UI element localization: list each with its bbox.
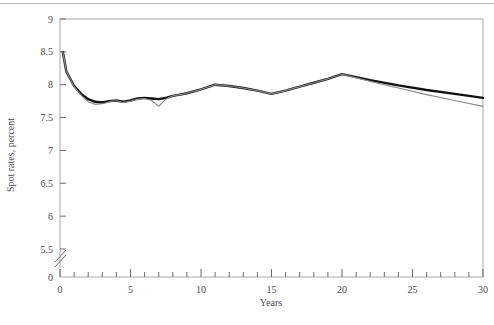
x-tick-label: 30 <box>478 284 488 295</box>
y-tick-label: 8.5 <box>41 46 54 57</box>
x-tick-label: 10 <box>196 284 206 295</box>
y-tick-label: 6.5 <box>41 178 54 189</box>
x-tick-label: 15 <box>267 284 277 295</box>
x-tick-label: 25 <box>408 284 418 295</box>
x-axis-title: Years <box>260 297 282 308</box>
spot-rate-curve-black <box>63 52 483 103</box>
data-series-layer <box>63 52 483 107</box>
y-tick-label: 6 <box>48 211 53 222</box>
x-tick-label: 0 <box>58 284 63 295</box>
chart-svg: 5.566.577.588.590 051015202530 Years Spo… <box>0 0 494 325</box>
y-tick-label-zero: 0 <box>48 272 53 283</box>
x-tick-label: 5 <box>128 284 133 295</box>
y-axis-title: Spot rates, percent <box>5 118 16 192</box>
y-tick-label: 7.5 <box>41 112 54 123</box>
y-tick-label: 9 <box>48 14 53 25</box>
y-tick-label: 8 <box>48 79 53 90</box>
y-tick-label: 7 <box>48 145 53 156</box>
y-tick-label: 5.5 <box>41 244 54 255</box>
x-tick-label: 20 <box>337 284 347 295</box>
spot-rate-curve-gray <box>63 52 483 107</box>
x-axis-ticks: 051015202530 <box>58 269 489 295</box>
plot-frame <box>60 19 483 277</box>
spot-rate-chart: 5.566.577.588.590 051015202530 Years Spo… <box>0 0 494 325</box>
